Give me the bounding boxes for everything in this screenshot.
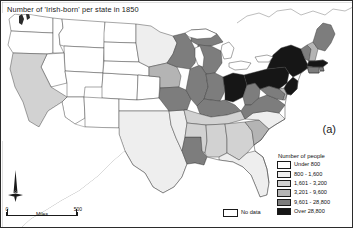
legend-label: 3,201 - 9,600: [294, 190, 327, 196]
legend-label: 1,601 - 3,200: [294, 181, 327, 187]
state-colorado: [102, 73, 138, 100]
legend-label: Over 28,800: [294, 209, 325, 215]
choropleth-map-figure: Number of 'Irish-born' per state in 1850…: [0, 0, 353, 228]
map-title: Number of 'Irish-born' per state in 1850: [7, 5, 139, 14]
state-south-dakota: [104, 42, 139, 62]
scale-unit-label: Miles: [6, 211, 78, 217]
scale-bar: 0 500 Miles: [6, 206, 78, 216]
legend-label: Under 800: [294, 162, 320, 168]
legend-item: 3,201 - 9,600: [277, 188, 330, 197]
state-utah: [65, 71, 103, 97]
state-new-mexico: [84, 97, 119, 128]
legend-swatch: [277, 189, 291, 196]
state-oregon: [8, 31, 53, 54]
legend-item: Over 28,800: [277, 207, 330, 216]
legend-swatch: [277, 161, 291, 168]
no-data-label: No data: [241, 210, 261, 216]
panel-label: (a): [323, 123, 336, 135]
legend-swatch: [277, 199, 291, 206]
state-kansas: [137, 75, 160, 100]
state-wyoming: [64, 46, 104, 73]
state-washington: [9, 14, 53, 33]
lake-erie: [229, 61, 251, 70]
state-montana: [59, 19, 105, 48]
legend-item: Under 800: [277, 161, 330, 170]
lake-huron: [221, 42, 234, 59]
map-legend: Number of people Under 800 800 - 1,600 1…: [277, 153, 330, 216]
legend-label: 800 - 1,600: [294, 172, 322, 178]
north-arrow-icon: [7, 169, 24, 203]
no-data-key: No data: [223, 209, 261, 217]
legend-title: Number of people: [278, 153, 330, 159]
legend-item: 9,601 - 28,800: [277, 198, 330, 207]
legend-label: 9,601 - 28,800: [294, 200, 330, 206]
legend-swatch: [277, 208, 291, 215]
legend-swatch: [277, 180, 291, 187]
no-data-swatch: [223, 209, 238, 217]
legend-item: 1,601 - 3,200: [277, 179, 330, 188]
state-north-dakota: [104, 22, 136, 43]
state-maine: [313, 23, 335, 51]
legend-item: 800 - 1,600: [277, 170, 330, 179]
state-alabama: [205, 124, 227, 157]
legend-swatch: [277, 171, 291, 178]
